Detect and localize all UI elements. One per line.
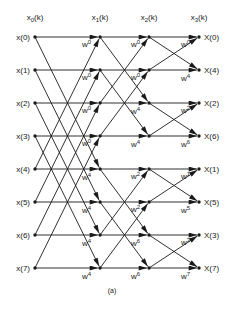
node-c0-r5 — [33, 200, 36, 203]
twiddle-weight-label: w2 — [180, 105, 191, 115]
fft-butterfly-diagram: x0(k)x1(k)x2(k)x3(k) x(0)x(1)x(2)x(3)x(4… — [0, 0, 233, 314]
node-c0-r1 — [33, 68, 36, 71]
edge-cross — [35, 72, 99, 202]
input-label: x(7) — [16, 264, 30, 273]
node-c2-r1 — [147, 68, 150, 71]
edge-cross — [100, 204, 148, 268]
twiddle-weight-label: w4 — [81, 271, 92, 281]
twiddle-weight-label: w2 — [130, 171, 141, 181]
node-c2-r5 — [147, 200, 150, 203]
node-c1-r6 — [98, 233, 101, 236]
node-c0-r4 — [33, 167, 36, 170]
input-label: x(0) — [16, 33, 30, 42]
twiddle-weight-label: w2 — [130, 204, 141, 214]
edge-cross — [100, 72, 148, 136]
column-header-x1: x1(k) — [92, 13, 109, 23]
twiddle-weight-label: w0 — [81, 105, 92, 115]
node-c2-r7 — [147, 266, 150, 269]
node-c1-r5 — [98, 200, 101, 203]
node-c3-r6 — [197, 233, 200, 236]
node-c2-r3 — [147, 134, 150, 137]
figure-caption: (a) — [108, 287, 117, 295]
signal-nodes — [33, 35, 200, 269]
node-c0-r6 — [33, 233, 36, 236]
output-label: X(4) — [204, 66, 219, 75]
edge-cross — [35, 37, 99, 167]
edge-cross — [35, 136, 99, 266]
edge-cross — [100, 202, 148, 266]
node-c2-r6 — [147, 233, 150, 236]
edge-cross — [35, 39, 99, 169]
twiddle-weight-label: w4 — [130, 106, 141, 116]
edge-cross — [35, 103, 99, 233]
node-c3-r3 — [197, 134, 200, 137]
node-c0-r3 — [33, 134, 36, 137]
node-c3-r5 — [197, 200, 200, 203]
edge-cross — [100, 171, 148, 235]
twiddle-weight-label: w0 — [180, 39, 191, 49]
twiddle-weight-label: w4 — [180, 73, 191, 83]
twiddle-weight-label: w0 — [130, 72, 141, 82]
input-label: x(1) — [16, 66, 30, 75]
signal-flow-edges — [35, 37, 197, 268]
edge-cross — [35, 70, 99, 200]
edge-cross — [100, 169, 148, 233]
input-label: x(4) — [16, 165, 30, 174]
twiddle-weight-label: w4 — [130, 139, 141, 149]
twiddle-weight-label: w4 — [81, 205, 92, 215]
twiddle-weight-label: w5 — [180, 205, 191, 215]
column-header-x2: x2(k) — [141, 13, 158, 23]
node-c3-r4 — [197, 167, 200, 170]
node-c2-r0 — [147, 35, 150, 38]
output-label: X(1) — [204, 165, 219, 174]
node-c1-r3 — [98, 134, 101, 137]
output-label: X(6) — [204, 132, 219, 141]
input-label: x(2) — [16, 99, 30, 108]
node-c3-r0 — [197, 35, 200, 38]
node-c1-r7 — [98, 266, 101, 269]
node-c2-r4 — [147, 167, 150, 170]
output-label: X(7) — [204, 264, 219, 273]
twiddle-weight-label: w0 — [130, 39, 141, 49]
twiddle-weight-label: w6 — [180, 139, 191, 149]
output-label: X(5) — [204, 198, 219, 207]
edge-cross — [35, 138, 99, 268]
twiddle-weight-label: w4 — [81, 172, 92, 182]
twiddle-weight-label: w3 — [180, 237, 191, 247]
node-c0-r2 — [33, 101, 36, 104]
twiddle-weight-label: w0 — [81, 72, 92, 82]
column-headers: x0(k)x1(k)x2(k)x3(k) — [27, 13, 208, 23]
output-label: X(3) — [204, 231, 219, 240]
node-c1-r0 — [98, 35, 101, 38]
input-label: x(5) — [16, 198, 30, 207]
node-c0-r7 — [33, 266, 36, 269]
node-c0-r0 — [33, 35, 36, 38]
edge-cross — [35, 105, 99, 235]
node-c2-r2 — [147, 101, 150, 104]
node-c1-r2 — [98, 101, 101, 104]
edge-cross — [100, 70, 148, 134]
twiddle-weight-label: w6 — [130, 238, 141, 248]
twiddle-weight-label: w4 — [81, 238, 92, 248]
output-label: X(0) — [204, 33, 219, 42]
node-c1-r1 — [98, 68, 101, 71]
node-c3-r1 — [197, 68, 200, 71]
output-label: X(2) — [204, 99, 219, 108]
twiddle-weight-label: w0 — [81, 39, 92, 49]
node-c3-r7 — [197, 266, 200, 269]
twiddle-weight-label: w7 — [180, 271, 191, 281]
twiddle-weight-label: w6 — [130, 271, 141, 281]
column-header-x3: x3(k) — [191, 13, 208, 23]
input-label: x(6) — [16, 231, 30, 240]
node-c1-r4 — [98, 167, 101, 170]
input-label: x(3) — [16, 132, 30, 141]
twiddle-weight-label: w0 — [81, 138, 92, 148]
twiddle-weight-label: w1 — [180, 171, 191, 181]
column-header-x0: x0(k) — [27, 13, 44, 23]
edge-cross — [100, 39, 148, 103]
node-c3-r2 — [197, 101, 200, 104]
edge-cross — [100, 37, 148, 101]
